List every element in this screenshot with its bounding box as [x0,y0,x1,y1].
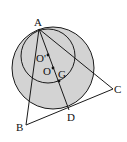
geometry-diagram: A B C D O O' G [0,0,127,142]
label-a: A [34,16,42,28]
label-c: C [114,83,121,95]
label-o-prime: O' [36,52,46,64]
point-o1-dot [47,54,50,57]
point-o-dot [52,67,55,70]
label-o: O [43,65,51,77]
label-d: D [67,111,75,123]
point-g-dot [58,80,61,83]
label-b: B [16,121,23,133]
label-g: G [58,68,66,80]
